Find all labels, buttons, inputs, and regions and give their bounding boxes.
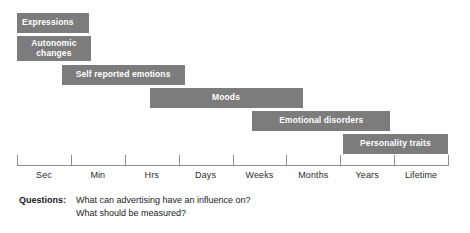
timeline-bar: Self reported emotions bbox=[62, 65, 185, 85]
axis-tick-label: Months bbox=[286, 170, 340, 180]
axis-tick-label: Min bbox=[71, 170, 125, 180]
axis-tick-label: Years bbox=[340, 170, 394, 180]
timeline-bars-area: ExpressionsAutonomic changesSelf reporte… bbox=[0, 0, 470, 166]
timeline-bar-label: Moods bbox=[212, 93, 240, 103]
timeline-bar: Emotional disorders bbox=[252, 111, 390, 131]
timeline-bar-label: Self reported emotions bbox=[76, 70, 171, 80]
timeline-bar: Moods bbox=[150, 88, 303, 108]
axis-tick-label: Hrs bbox=[125, 170, 179, 180]
timeline-figure: ExpressionsAutonomic changesSelf reporte… bbox=[0, 0, 470, 233]
question-line: What should be measured? bbox=[76, 207, 251, 220]
timeline-bar-label: Personality traits bbox=[360, 139, 431, 149]
timeline-bar: Autonomic changes bbox=[17, 36, 91, 61]
axis-tick-label: Weeks bbox=[233, 170, 287, 180]
axis-tick-label: Sec bbox=[17, 170, 71, 180]
timeline-bar-label: Autonomic changes bbox=[31, 39, 76, 59]
timeline-bar: Expressions bbox=[17, 13, 89, 33]
axis-tick-label: Lifetime bbox=[394, 170, 448, 180]
questions-block: Questions: What can advertising have an … bbox=[19, 194, 251, 219]
timeline-bar: Personality traits bbox=[343, 134, 448, 154]
axis-tick-label: Days bbox=[179, 170, 233, 180]
timeline-bar-label: Expressions bbox=[22, 18, 74, 28]
questions-label: Questions: bbox=[19, 194, 66, 207]
timeline-bar-label: Emotional disorders bbox=[279, 116, 363, 126]
question-line: What can advertising have an influence o… bbox=[76, 194, 251, 207]
questions-text-lines: What can advertising have an influence o… bbox=[76, 194, 251, 219]
